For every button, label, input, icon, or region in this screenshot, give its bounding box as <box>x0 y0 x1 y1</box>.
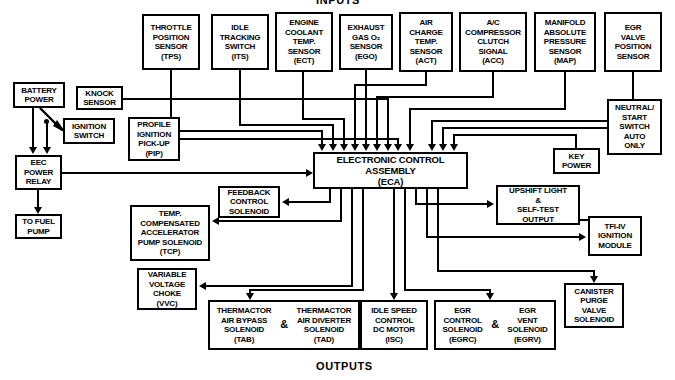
wire-ignition-to-relay <box>46 122 48 148</box>
box-line: (TCP) <box>160 247 180 257</box>
box-line: (EGRC) <box>449 335 476 345</box>
input-box-neutral-start-switch[interactable]: NEUTRAL/ START SWITCH AUTO ONLY <box>607 99 662 155</box>
arrowhead-ego <box>351 144 359 151</box>
box-line: AIR <box>419 18 432 28</box>
input-box-engine-coolant-temp-sensor[interactable]: ENGINE COOLANT TEMP. SENSOR (ECT) <box>275 12 333 72</box>
box-line: KEY <box>569 152 585 162</box>
input-box-eec-power-relay[interactable]: EEC POWER RELAY <box>15 155 62 190</box>
box-line: THERMACTOR <box>217 306 272 316</box>
output-box-idle-speed-control-dc-motor[interactable]: IDLE SPEED CONTROL DC MOTOR (ISC) <box>360 300 428 350</box>
wire-map-pin <box>409 108 411 145</box>
box-line: TEMP. <box>159 209 181 219</box>
input-box-egr-valve-position-sensor[interactable]: EGR VALVE POSITION SENSOR <box>604 12 662 72</box>
output-box-canister-purge-valve-solenoid[interactable]: CANISTER PURGE VALVE SOLENOID <box>564 283 624 328</box>
box-line: A/C <box>486 18 499 28</box>
output-box-tfi-iv-ignition-module[interactable]: TFI-IV IGNITION MODULE <box>588 216 642 256</box>
wire-canister-run <box>437 270 595 272</box>
box-line: CONTROL <box>230 197 268 207</box>
box-line: ABSOLUTE <box>544 28 586 38</box>
wire-upshift-drop <box>415 189 417 204</box>
input-box-ac-compressor-clutch-signal[interactable]: A/C COMPRESSOR CLUTCH SIGNAL (ACC) <box>459 12 527 72</box>
input-box-knock-sensor[interactable]: KNOCK SENSOR <box>76 86 123 110</box>
box-line: (ISC) <box>385 335 403 345</box>
arrowhead-egr <box>486 293 494 300</box>
box-line: TFI-IV <box>604 222 625 232</box>
arrowhead-thermactor <box>246 293 254 300</box>
wire-act-run <box>366 84 427 86</box>
arrowhead-its <box>329 144 337 151</box>
arrowhead-feedback <box>282 198 289 206</box>
arrowhead-map <box>406 144 414 151</box>
box-line: NEUTRAL/ <box>615 103 654 113</box>
wire-thermactor-run <box>250 289 364 291</box>
output-box-egr-solenoid-pair[interactable]: EGR CONTROL SOLENOID (EGRC) & EGR VENT S… <box>434 300 556 350</box>
output-box-upshift-light-self-test[interactable]: UPSHIFT LIGHT & SELF-TEST OUTPUT <box>496 185 580 225</box>
output-box-variable-voltage-choke[interactable]: VARIABLE VOLTAGE CHOKE (VVC) <box>137 268 197 310</box>
wire-evp-pin <box>431 120 433 145</box>
box-line: MODULE <box>598 241 631 251</box>
box-line: POWER <box>24 168 53 178</box>
wire-keypower-drop <box>575 134 577 149</box>
wire-isc-drop <box>393 189 395 294</box>
wire-battery-to-ignition-switch <box>40 108 62 130</box>
box-line: PRESSURE <box>544 37 586 47</box>
wire-neutral-pin <box>442 127 444 145</box>
input-box-key-power[interactable]: KEY POWER <box>553 148 600 174</box>
box-line: (TAD) <box>314 335 334 345</box>
box-line: POSITION <box>615 42 652 52</box>
output-box-to-fuel-pump[interactable]: TO FUEL PUMP <box>15 214 62 239</box>
input-box-throttle-position-sensor[interactable]: THROTTLE POSITION SENSOR (TPS) <box>142 14 200 70</box>
wire-battery-to-relay <box>32 108 34 148</box>
box-line: SENSOR <box>350 42 383 52</box>
box-line: SOLENOID <box>442 325 482 335</box>
box-line: TEMP. <box>415 37 437 47</box>
box-line: EXHAUST <box>348 23 385 33</box>
wire-keypower-run <box>454 134 577 136</box>
thermactor-air-bypass-half: THERMACTOR AIR BYPASS SOLENOID (TAB) <box>211 306 277 344</box>
box-line: CONTROL <box>443 316 481 326</box>
input-box-idle-tracking-switch[interactable]: IDLE TRACKING SWITCH (ITS) <box>211 14 269 70</box>
box-line: SENSOR <box>155 42 188 52</box>
input-box-manifold-absolute-pressure-sensor[interactable]: MANIFOLD ABSOLUTE PRESSURE SENSOR (MAP) <box>534 12 596 72</box>
wire-tps-run <box>170 130 322 132</box>
box-line: SENSOR <box>83 98 116 108</box>
arrowhead-knock <box>384 144 392 151</box>
box-line: SOLENOID <box>304 325 344 335</box>
box-line: AIR BYPASS <box>221 316 267 326</box>
box-line: SWITCH <box>225 42 255 52</box>
output-box-feedback-control-solenoid[interactable]: FEEDBACK CONTROL SOLENOID <box>218 186 280 218</box>
block-diagram-canvas: INPUTS OUTPUTS THROTTLE POSITION SENSOR … <box>0 0 675 380</box>
box-line: PUMP SOLENOID <box>138 238 202 248</box>
egr-control-solenoid-half: EGR CONTROL SOLENOID (EGRC) <box>437 306 488 344</box>
box-line: SELF-TEST <box>517 205 559 215</box>
box-line: SENSOR <box>549 47 582 57</box>
box-line: TO FUEL <box>22 217 55 227</box>
box-line: SENSOR <box>288 47 321 57</box>
output-box-temp-compensated-accelerator-pump-solenoid[interactable]: TEMP. COMPENSATED ACCELERATOR PUMP SOLEN… <box>130 205 210 261</box>
arrowhead-acc <box>373 144 381 151</box>
box-line: SENSOR <box>617 52 650 62</box>
thermactor-air-diverter-half: THERMACTOR AIR DIVERTER SOLENOID (TAD) <box>291 306 357 344</box>
box-line: IDLE SPEED <box>371 306 417 316</box>
box-line: ELECTRONIC CONTROL <box>337 154 445 165</box>
arrowhead-ignition-relay <box>43 147 51 154</box>
egr-vent-solenoid-half: EGR VENT SOLENOID (EGRV) <box>502 306 553 344</box>
box-line: (ECT) <box>294 56 314 66</box>
input-box-ignition-switch[interactable]: IGNITION SWITCH <box>63 118 115 144</box>
box-line: THROTTLE <box>150 23 191 33</box>
electronic-control-assembly-box[interactable]: ELECTRONIC CONTROL ASSEMBLY (ECA) <box>313 152 468 189</box>
ampersand-separator: & <box>277 320 291 330</box>
wire-evp-run <box>432 120 634 122</box>
ampersand-separator: & <box>488 320 502 330</box>
output-box-thermactor-solenoid-pair[interactable]: THERMACTOR AIR BYPASS SOLENOID (TAB) & T… <box>208 300 360 350</box>
box-line: EGR <box>519 306 536 316</box>
input-box-battery-power[interactable]: BATTERY POWER <box>13 82 65 108</box>
box-line: IGNITION <box>137 130 171 140</box>
input-box-profile-ignition-pickup[interactable]: PROFILE IGNITION PICK-UP (PIP) <box>128 117 180 161</box>
wire-vvc-drop <box>351 189 353 287</box>
box-line: POWER <box>562 161 591 171</box>
input-box-air-charge-temp-sensor[interactable]: AIR CHARGE TEMP. SENSOR (ACT) <box>399 12 453 72</box>
box-line: AIR DIVERTER <box>297 316 351 326</box>
input-box-exhaust-gas-oxygen-sensor[interactable]: EXHAUST GAS O₂ SENSOR (EGO) <box>339 14 393 70</box>
box-line: SWITCH <box>74 131 104 141</box>
